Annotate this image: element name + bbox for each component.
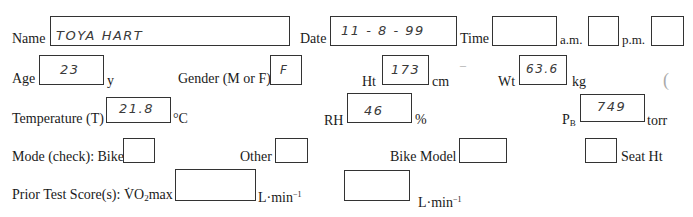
rh-value: 46 [364, 103, 384, 118]
date-value: 11 - 8 - 99 [341, 23, 425, 38]
vo2max-score1-field[interactable] [175, 169, 256, 201]
prior-test-label: Prior Test Score(s): VO2max [12, 188, 173, 205]
height-unit: cm [432, 75, 449, 89]
height-field[interactable]: 173 [382, 55, 429, 85]
temperature-value: 21.8 [119, 101, 154, 116]
temperature-field[interactable]: 21.8 [106, 97, 171, 123]
score2-unit: L·min−1 [418, 193, 462, 210]
weight-field[interactable]: 63.6 [519, 55, 567, 85]
pb-field[interactable]: 749 [580, 94, 645, 122]
name-field[interactable]: TOYA HART [50, 16, 290, 46]
am-label: a.m. [560, 33, 582, 47]
gender-field[interactable]: F [270, 55, 302, 85]
pm-checkbox[interactable] [651, 16, 684, 46]
am-checkbox[interactable] [588, 16, 619, 46]
pb-label-sub: B [570, 118, 576, 128]
pb-value: 749 [597, 99, 626, 114]
weight-label: Wt [498, 75, 515, 89]
pb-label-main: P [562, 112, 570, 127]
bike-model-field[interactable] [459, 138, 507, 163]
seat-ht-label: Seat Ht [621, 150, 663, 164]
pb-label: PB [562, 113, 576, 130]
age-label: Age [12, 72, 35, 86]
pb-unit: torr [647, 114, 667, 128]
other-label: Other [240, 150, 272, 164]
vo2max-score2-field[interactable] [344, 170, 410, 201]
temperature-unit: °C [173, 112, 188, 126]
age-value: 23 [60, 62, 80, 77]
rh-field[interactable]: 46 [347, 93, 412, 123]
vo2-v: V [124, 187, 134, 202]
score1-unit-main: L·min [258, 190, 293, 205]
temperature-label: Temperature (T) [12, 112, 104, 126]
gender-value: F [280, 63, 288, 77]
stray-mark: ‒ [460, 58, 466, 73]
pm-label: p.m. [622, 33, 645, 47]
stray-mark: ( [663, 70, 669, 91]
vo2-max: max [149, 187, 173, 202]
vo2-o: O [134, 187, 144, 202]
prior-test-text: Prior Test Score(s): [12, 187, 124, 202]
time-field[interactable] [492, 16, 557, 46]
bike-checkbox[interactable] [123, 138, 155, 163]
score1-unit-sup: −1 [293, 190, 302, 199]
date-field[interactable]: 11 - 8 - 99 [330, 16, 457, 46]
age-field[interactable]: 23 [39, 55, 104, 85]
time-label: Time [460, 32, 489, 46]
height-value: 173 [391, 62, 420, 77]
weight-unit: kg [572, 75, 586, 89]
bike-model-label: Bike Model [390, 150, 457, 164]
name-value: TOYA HART [56, 28, 143, 43]
height-label: Ht [362, 75, 376, 89]
score1-unit: L·min−1 [258, 188, 302, 205]
rh-label: RH [324, 114, 343, 128]
age-unit: y [107, 74, 114, 88]
seat-ht-field[interactable] [585, 138, 617, 163]
score2-unit-sup: −1 [453, 195, 462, 204]
name-label: Name [12, 32, 45, 46]
gender-label: Gender (M or F) [178, 72, 271, 86]
rh-unit: % [415, 113, 427, 127]
mode-label: Mode (check): Bike [12, 150, 124, 164]
other-checkbox[interactable] [275, 138, 308, 163]
weight-value: 63.6 [526, 62, 559, 76]
date-label: Date [300, 32, 326, 46]
score2-unit-main: L·min [418, 195, 453, 210]
